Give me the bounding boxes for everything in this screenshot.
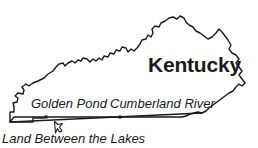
kentucky-map-figure: Kentucky Golden Pond Cumberland River La…: [0, 0, 258, 148]
golden-pond-label: Golden Pond: [31, 96, 107, 111]
cumberland-river-label: Cumberland River: [110, 96, 215, 111]
marker-dot-cumberland-river: [119, 116, 122, 119]
land-between-the-lakes-label: Land Between the Lakes: [2, 131, 145, 146]
marker-dot-golden-pond: [45, 116, 48, 119]
state-name-label: Kentucky: [148, 53, 241, 77]
